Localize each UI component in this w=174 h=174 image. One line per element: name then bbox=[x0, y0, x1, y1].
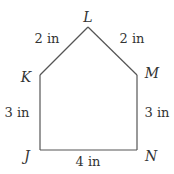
edge-length-lm: 2 in bbox=[120, 31, 146, 46]
vertex-label-n: N bbox=[144, 148, 158, 164]
vertex-label-l: L bbox=[82, 9, 92, 25]
vertex-label-k: K bbox=[20, 69, 33, 85]
edge-length-mn: 3 in bbox=[145, 105, 171, 120]
edge-length-jn: 4 in bbox=[76, 154, 102, 169]
vertex-label-m: M bbox=[144, 65, 160, 81]
edge-length-kj: 3 in bbox=[5, 105, 31, 120]
vertex-label-j: J bbox=[21, 148, 31, 164]
edge-length-kl: 2 in bbox=[35, 31, 61, 46]
pentagon-diagram: L K M J N 2 in 2 in 3 in 3 in 4 in bbox=[0, 0, 174, 174]
